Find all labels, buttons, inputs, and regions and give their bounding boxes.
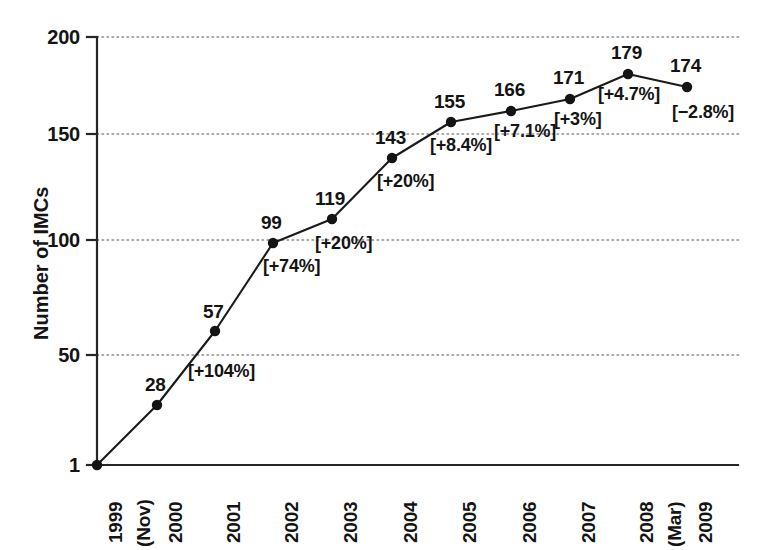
growth-label-2006-2007: [+3%] — [554, 110, 602, 128]
y-axis-title: Number of IMCs — [30, 187, 53, 340]
point-label-2007: 171 — [553, 68, 584, 87]
point-label-2003: 119 — [315, 189, 345, 208]
point-label-2001: 57 — [203, 302, 224, 321]
growth-label-2003-2004: [+20%] — [377, 172, 434, 190]
x-tick-label-2005: 2005 — [460, 502, 479, 543]
y-tick-label-150: 150 — [24, 124, 80, 144]
data-point-2002 — [268, 238, 278, 248]
y-tick-marks — [87, 37, 97, 465]
data-point-2009 — [682, 82, 692, 92]
data-point-2003 — [327, 214, 337, 224]
x-tick-label-nov: (Nov) — [134, 499, 153, 547]
data-point-2001 — [210, 326, 220, 336]
x-tick-label-2002: 2002 — [282, 502, 301, 543]
x-tick-label-2004: 2004 — [401, 502, 420, 543]
growth-label-1999-2000: [+104%] — [188, 362, 255, 380]
x-tick-label-mar: (Mar) — [665, 502, 684, 547]
growth-label-2000-2001: [+74%] — [263, 257, 320, 275]
x-tick-label-2007: 2007 — [579, 502, 598, 543]
data-point-2000 — [152, 400, 162, 410]
x-tick-label-2006: 2006 — [520, 502, 539, 543]
x-tick-label-2008: 2008 — [637, 502, 656, 543]
x-tick-label-2000: 2000 — [166, 502, 185, 543]
y-tick-label-100: 100 — [24, 230, 80, 250]
growth-label-2007-2008: [+4.7%] — [598, 85, 660, 103]
chart-figure: Number of IMCs 200 150 100 50 1 1999 (No… — [0, 0, 761, 550]
x-tick-label-2009: 2009 — [696, 502, 715, 543]
line-chart-canvas — [0, 0, 761, 550]
data-point-2008 — [623, 69, 633, 79]
y-tick-label-50: 50 — [24, 345, 80, 365]
point-label-2009: 174 — [670, 56, 701, 75]
y-tick-label-200: 200 — [24, 27, 80, 47]
point-label-2006: 166 — [494, 80, 525, 99]
data-point-2005 — [446, 117, 456, 127]
data-point-2006 — [506, 106, 516, 116]
point-label-2002: 99 — [261, 213, 282, 232]
x-tick-label-1999: 1999 — [106, 502, 125, 543]
point-label-2005: 155 — [434, 92, 465, 111]
growth-label-2004-2005: [+8.4%] — [430, 136, 492, 154]
growth-label-2008-2009: [−2.8%] — [672, 103, 734, 121]
data-point-2007 — [565, 94, 575, 104]
x-tick-label-2001: 2001 — [224, 502, 243, 543]
point-label-2004: 143 — [375, 128, 406, 147]
x-tick-label-2003: 2003 — [341, 502, 360, 543]
growth-label-2001-2002: [+20%] — [315, 234, 372, 252]
point-label-2000: 28 — [145, 375, 166, 394]
data-point-1999 — [92, 460, 102, 470]
data-point-2004 — [387, 153, 397, 163]
growth-label-2005-2006: [+7.1%] — [494, 122, 556, 140]
y-tick-label-1: 1 — [24, 455, 80, 475]
point-label-2008: 179 — [611, 43, 642, 62]
